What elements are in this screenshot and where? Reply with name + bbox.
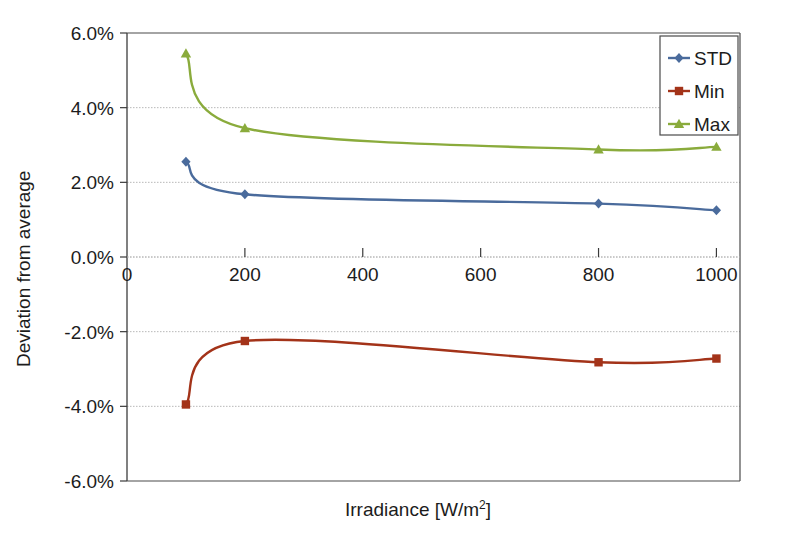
x-tick-label: 400	[347, 264, 379, 285]
y-tick-label: 4.0%	[71, 98, 114, 119]
legend-marker-min	[675, 87, 683, 95]
x-tick-label: 1000	[695, 264, 737, 285]
data-point-min-800	[594, 358, 602, 366]
legend-label-max: Max	[694, 114, 730, 135]
x-tick-label: 0	[122, 264, 133, 285]
y-tick-label: -2.0%	[64, 322, 114, 343]
data-point-min-100	[182, 400, 190, 408]
legend-label-std: STD	[694, 48, 732, 69]
chart-container: 6.0%4.0%2.0%0.0%-2.0%-4.0%-6.0% 02004006…	[0, 0, 785, 535]
deviation-vs-irradiance-chart: 6.0%4.0%2.0%0.0%-2.0%-4.0%-6.0% 02004006…	[0, 0, 785, 535]
legend-items[interactable]: STDMinMax	[668, 48, 732, 135]
data-point-min-1000	[712, 354, 720, 362]
x-tick-label: 600	[465, 264, 497, 285]
x-axis-title: Irradiance [W/m2]	[345, 498, 491, 520]
legend[interactable]: STDMinMax	[660, 36, 738, 135]
x-tick-label: 800	[583, 264, 615, 285]
x-axis-title-base: Irradiance [W/m	[345, 499, 479, 520]
y-tick-label: -4.0%	[64, 396, 114, 417]
y-tick-label: 6.0%	[71, 23, 114, 44]
data-point-min-200	[241, 337, 249, 345]
legend-label-min: Min	[694, 81, 725, 102]
y-axis-ticks: 6.0%4.0%2.0%0.0%-2.0%-4.0%-6.0%	[64, 23, 127, 492]
y-axis-title: Deviation from average	[13, 171, 34, 367]
x-axis-title-tail: ]	[486, 499, 491, 520]
y-tick-label: -6.0%	[64, 471, 114, 492]
y-tick-label: 2.0%	[71, 172, 114, 193]
x-tick-label: 200	[229, 264, 261, 285]
y-tick-label: 0.0%	[71, 247, 114, 268]
